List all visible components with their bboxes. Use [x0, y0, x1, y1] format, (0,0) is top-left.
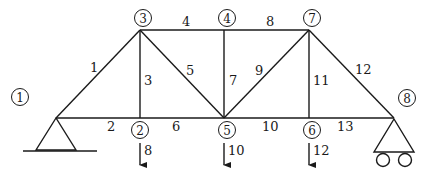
member-label-2: 2 [107, 119, 115, 134]
member-5 [140, 30, 224, 118]
load-label-node-2: 8 [144, 143, 152, 158]
node-number-4: 4 [223, 12, 231, 26]
truss-diagram: 12345678910111213 81012 12345678 [0, 0, 438, 179]
member-label-12: 12 [355, 62, 372, 77]
node-number-3: 3 [139, 12, 147, 26]
member-labels: 12345678910111213 [90, 14, 372, 134]
member-label-11: 11 [313, 73, 330, 88]
member-label-4: 4 [182, 14, 190, 29]
member-label-1: 1 [90, 60, 98, 75]
load-label-node-5: 10 [228, 143, 245, 158]
node-number-2: 2 [136, 124, 144, 138]
roller-wheel-right [399, 154, 412, 167]
roller-support-triangle [374, 119, 414, 152]
member-label-10: 10 [262, 119, 279, 134]
pin-support [23, 118, 97, 151]
node-number-5: 5 [223, 124, 231, 138]
member-label-5: 5 [186, 63, 194, 78]
node-number-7: 7 [308, 12, 316, 26]
member-label-6: 6 [172, 119, 180, 134]
node-2: 2 [132, 122, 149, 139]
node-8: 8 [399, 90, 416, 107]
node-number-8: 8 [403, 92, 411, 106]
truss-members [56, 30, 394, 118]
node-7: 7 [304, 10, 321, 27]
member-label-13: 13 [337, 119, 354, 134]
node-3: 3 [135, 10, 152, 27]
node-5: 5 [219, 122, 236, 139]
member-label-3: 3 [144, 73, 152, 88]
node-4: 4 [219, 10, 236, 27]
roller-support [374, 119, 414, 167]
member-label-7: 7 [229, 73, 237, 88]
node-number-6: 6 [308, 124, 316, 138]
member-label-9: 9 [255, 63, 263, 78]
applied-loads: 81012 [140, 143, 330, 165]
node-number-1: 1 [16, 91, 24, 105]
member-label-8: 8 [266, 14, 274, 29]
roller-wheel-left [377, 154, 390, 167]
pin-support-triangle [36, 118, 76, 150]
node-1: 1 [12, 89, 29, 106]
node-6: 6 [304, 122, 321, 139]
load-label-node-6: 12 [313, 143, 330, 158]
